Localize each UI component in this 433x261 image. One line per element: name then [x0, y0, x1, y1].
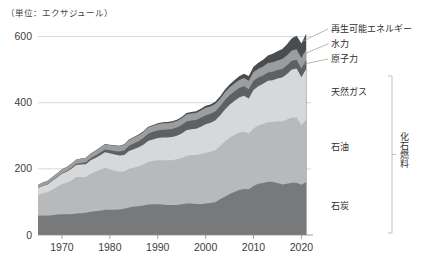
y-tick-label: 0 [26, 229, 32, 241]
x-tick-label: 2020 [290, 241, 314, 253]
x-tick-label: 2010 [242, 241, 266, 253]
fossil-fuel-bracket [388, 76, 396, 233]
series-label: 水力 [331, 38, 349, 49]
series-areas-group [38, 34, 306, 235]
energy-consumption-area-chart: （単位：エクサジュール） 0200400600 1970198019902000… [0, 0, 433, 261]
series-label: 天然ガス [331, 86, 367, 97]
y-tick-label: 600 [14, 30, 32, 42]
x-tick-label: 1970 [50, 241, 74, 253]
x-tick-label: 1990 [146, 241, 170, 253]
chart-canvas: 0200400600 197019801990200020102020 再生可能… [0, 0, 433, 261]
y-tick-labels-group: 0200400600 [14, 30, 32, 240]
x-tick-label: 2000 [194, 241, 218, 253]
x-tick-labels-group: 197019801990200020102020 [50, 241, 313, 253]
x-tick-label: 1980 [98, 241, 122, 253]
y-tick-label: 400 [14, 96, 32, 108]
y-tick-label: 200 [14, 162, 32, 174]
series-labels-group: 再生可能エネルギー水力原子力天然ガス石油石炭 [331, 23, 412, 211]
series-label: 石炭 [331, 201, 349, 211]
series-label: 石油 [331, 141, 349, 152]
series-label: 再生可能エネルギー [331, 23, 412, 34]
fossil-fuel-bracket-label: 化石燃料 [399, 133, 410, 170]
series-label: 原子力 [331, 53, 358, 64]
axes-group [38, 235, 313, 239]
